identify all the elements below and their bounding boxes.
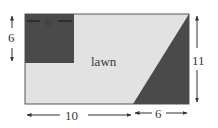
lawn-label: lawn (91, 54, 117, 69)
total-height-label: 11 (192, 53, 205, 68)
lawn-diagram: lawn 6 6 11 10 6 (0, 0, 218, 128)
square-width-label: 6 (45, 15, 51, 29)
bottom-left-label: 10 (65, 108, 78, 123)
square-height-label: 6 (8, 30, 15, 45)
bottom-right-label: 6 (155, 106, 162, 121)
